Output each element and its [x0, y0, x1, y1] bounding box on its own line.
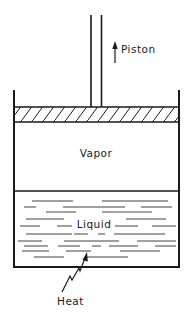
heat-arrow — [62, 252, 88, 292]
piston-head — [14, 107, 179, 122]
heat-label: Heat — [57, 295, 84, 307]
piston-label-group: Piston — [112, 41, 155, 63]
vapor-label: Vapor — [80, 147, 113, 159]
arrowhead-icon — [112, 41, 117, 49]
piston-rod — [91, 15, 102, 107]
piston-cylinder-diagram: Piston Vapor Li — [0, 0, 187, 319]
heat-arrowhead-icon — [83, 252, 88, 262]
liquid-label: Liquid — [77, 218, 112, 230]
piston-label: Piston — [121, 43, 156, 55]
heat-squiggle-icon — [62, 258, 85, 292]
